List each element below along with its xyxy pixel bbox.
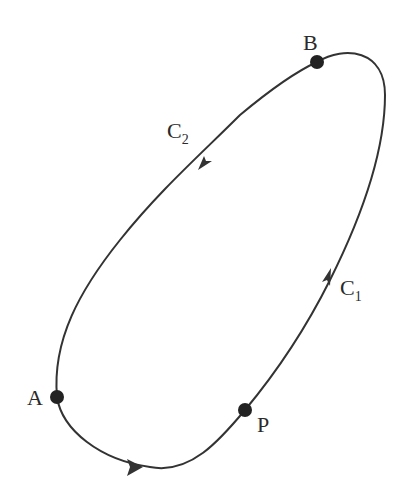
diagram-canvas: A B P C2 C1 <box>0 0 415 499</box>
arrow-c2-icon <box>198 156 212 170</box>
label-p: P <box>257 412 269 437</box>
label-b: B <box>303 30 318 55</box>
point-a <box>50 390 64 404</box>
closed-curve-diagram: A B P C2 C1 <box>0 0 415 499</box>
label-c1: C1 <box>340 275 362 304</box>
point-p <box>238 403 252 417</box>
label-c2: C2 <box>167 118 189 147</box>
arrow-c1-icon <box>322 268 331 286</box>
arrow-bottom-icon <box>127 459 143 476</box>
label-a: A <box>27 385 43 410</box>
closed-curve <box>56 53 385 468</box>
point-b <box>310 55 324 69</box>
